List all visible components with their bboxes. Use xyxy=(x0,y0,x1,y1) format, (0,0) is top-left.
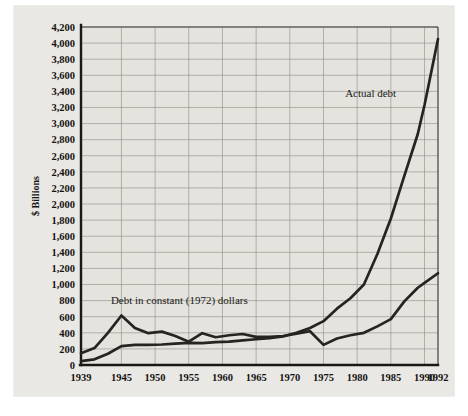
y-tick-label: 0 xyxy=(70,360,75,371)
y-tick-label: 1,600 xyxy=(51,231,75,242)
y-tick-label: 4,000 xyxy=(51,38,75,49)
y-axis-tick-labels: 02004006008001,0001,2001,4001,6001,8002,… xyxy=(51,22,75,371)
x-tick-label: 1960 xyxy=(212,372,233,383)
y-tick-label: 3,800 xyxy=(51,54,75,65)
y-tick-label: 2,200 xyxy=(51,183,75,194)
x-tick-label: 1985 xyxy=(380,372,401,383)
y-tick-label: 4,200 xyxy=(51,22,75,33)
x-tick-label: 1939 xyxy=(71,372,92,383)
x-tick-label: 1992 xyxy=(428,372,449,383)
y-tick-label: 3,400 xyxy=(51,86,75,97)
y-axis-title-text: $ Billions xyxy=(30,176,41,216)
y-tick-label: 2,600 xyxy=(51,151,75,162)
y-tick-label: 2,000 xyxy=(51,199,75,210)
x-tick-label: 1980 xyxy=(347,372,368,383)
chart-figure-panel: 02004006008001,0001,2001,4001,6001,8002,… xyxy=(14,6,454,396)
y-tick-label: 800 xyxy=(59,295,75,306)
y-tick-label: 1,800 xyxy=(51,215,75,226)
y-tick-label: 400 xyxy=(59,328,75,339)
y-tick-label: 2,400 xyxy=(51,167,75,178)
line-chart: 02004006008001,0001,2001,4001,6001,8002,… xyxy=(14,6,454,396)
y-tick-label: 200 xyxy=(59,344,75,355)
x-tick-label: 1975 xyxy=(313,372,334,383)
x-tick-label: 1955 xyxy=(178,372,199,383)
y-tick-label: 600 xyxy=(59,312,75,323)
plot-background xyxy=(81,27,438,365)
y-axis-title: $ Billions xyxy=(30,176,41,216)
chart-annotation: Actual debt xyxy=(345,87,396,99)
y-tick-label: 1,000 xyxy=(51,279,75,290)
y-tick-label: 3,200 xyxy=(51,102,75,113)
chart-annotation: Debt in constant (1972) dollars xyxy=(111,294,248,307)
y-tick-label: 1,400 xyxy=(51,247,75,258)
y-tick-label: 2,800 xyxy=(51,134,75,145)
x-tick-label: 1970 xyxy=(279,372,300,383)
x-axis-tick-labels: 1939194519501955196019651970197519801985… xyxy=(71,372,449,383)
y-tick-label: 3,000 xyxy=(51,118,75,129)
y-tick-label: 1,200 xyxy=(51,263,75,274)
x-tick-label: 1965 xyxy=(246,372,267,383)
x-tick-label: 1950 xyxy=(145,372,166,383)
y-tick-label: 3,600 xyxy=(51,70,75,81)
x-tick-label: 1945 xyxy=(111,372,132,383)
